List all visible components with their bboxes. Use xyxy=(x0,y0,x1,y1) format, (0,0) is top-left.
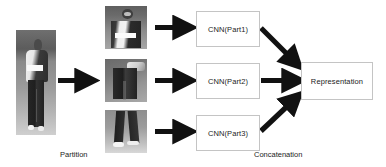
cnn-part1-box[interactable]: CNN(Part1) xyxy=(196,11,260,47)
part3-lower-body-crop xyxy=(105,110,147,153)
cnn-part3-label: CNN(Part3) xyxy=(208,129,248,138)
partition-caption: Partition xyxy=(60,150,88,159)
cnn-part2-box[interactable]: CNN(Part2) xyxy=(196,63,260,99)
cnn-part2-label: CNN(Part2) xyxy=(208,77,248,86)
part2-mid-body-crop xyxy=(105,59,147,102)
part1-upper-body-crop xyxy=(105,6,147,49)
representation-label: Representation xyxy=(311,77,363,86)
arrow-cnn1-to-representation xyxy=(261,28,298,65)
figure-canvas: CNN(Part1) CNN(Part2) CNN(Part3) Represe… xyxy=(0,0,386,167)
arrow-cnn3-to-representation xyxy=(261,96,298,131)
representation-box[interactable]: Representation xyxy=(301,62,373,100)
cnn-part3-box[interactable]: CNN(Part3) xyxy=(196,115,260,151)
cnn-part1-label: CNN(Part1) xyxy=(208,25,248,34)
concatenation-caption: Concatenation xyxy=(254,150,302,159)
full-body-pedestrian-image xyxy=(16,30,56,135)
